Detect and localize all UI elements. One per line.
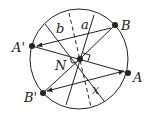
circle-diagram: B A A' B' N a b x [0,0,150,114]
point-A [125,70,131,76]
label-N: N [54,58,67,73]
label-B: B [120,18,131,33]
arrow-B-Aprime [37,28,111,46]
label-Bprime: B' [23,90,37,105]
arrow-Bprime-A [47,71,124,91]
label-A: A [132,70,142,85]
point-Bprime [40,90,46,96]
label-x: x [92,82,100,97]
label-b: b [56,21,64,36]
point-Aprime [29,43,35,49]
label-a: a [81,17,89,32]
label-Aprime: A' [11,40,25,55]
right-angle-mark [83,53,90,61]
point-N [77,56,83,62]
point-B [112,22,118,28]
geometry-figure: B A A' B' N a b x [0,0,150,114]
